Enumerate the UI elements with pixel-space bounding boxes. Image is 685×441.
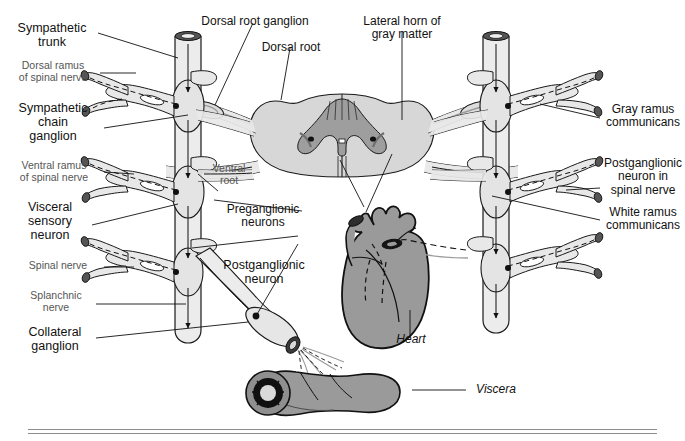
spinal-nerve-right-1 bbox=[505, 70, 604, 118]
label-sympathetic-chain-ganglion: Sympathetic chain ganglion bbox=[4, 101, 102, 143]
label-spinal-nerve: Spinal nerve bbox=[14, 260, 102, 272]
sympathetic-trunk-right bbox=[467, 32, 512, 334]
label-ventral-ramus: Ventral ramus of spinal nerve bbox=[4, 160, 104, 184]
spinal-nerve-right-2 bbox=[505, 156, 604, 204]
label-lateral-horn: Lateral horn of gray matter bbox=[345, 15, 459, 42]
label-viscera: Viscera bbox=[466, 383, 526, 396]
label-gray-ramus-communicans: Gray ramus communicans bbox=[603, 103, 683, 130]
label-ventral-root: Ventral root bbox=[199, 163, 259, 187]
heart-organ bbox=[342, 206, 429, 348]
footer-rule-bottom bbox=[28, 433, 657, 434]
label-heart: Heart bbox=[384, 333, 438, 346]
footer-rule-top bbox=[28, 429, 657, 430]
spinal-nerve-right-3 bbox=[505, 232, 604, 280]
label-white-ramus-communicans: White ramus communicans bbox=[603, 206, 683, 233]
label-splanchnic-nerve: Splanchnic nerve bbox=[18, 290, 94, 314]
label-sympathetic-trunk: Sympathetic trunk bbox=[4, 21, 100, 49]
label-visceral-sensory-neuron: Visceral sensory neuron bbox=[10, 200, 90, 242]
label-dorsal-root-ganglion: Dorsal root ganglion bbox=[185, 15, 325, 28]
label-dorsal-ramus: Dorsal ramus of spinal nerve bbox=[4, 60, 102, 84]
label-dorsal-root: Dorsal root bbox=[245, 41, 337, 54]
sympathetic-trunk-left bbox=[172, 32, 217, 344]
label-postganglionic-neuron-in-spinal-nerve: Postganglionic neuron in spinal nerve bbox=[601, 157, 685, 197]
label-collateral-ganglion: Collateral ganglion bbox=[14, 325, 96, 353]
label-postganglionic-neuron: Postganglionic neuron bbox=[214, 258, 314, 286]
label-preganglionic-neurons: Preganglionic neurons bbox=[215, 203, 311, 230]
collateral-ganglion bbox=[240, 300, 304, 356]
anatomy-illustration bbox=[0, 0, 685, 441]
viscera-organ bbox=[246, 371, 400, 415]
leader-lines bbox=[92, 23, 600, 390]
figure-canvas: Sympathetic trunk Dorsal ramus of spinal… bbox=[0, 0, 685, 441]
rami-communicantes-right bbox=[430, 110, 488, 181]
